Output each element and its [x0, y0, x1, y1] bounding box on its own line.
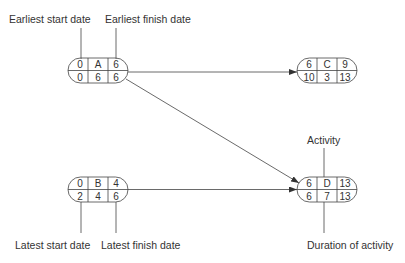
node-c-name: C	[317, 58, 337, 71]
node-c-earliest-start: 6	[299, 58, 319, 71]
node-a-name: A	[88, 58, 108, 71]
node-c-latest-finish: 13	[335, 71, 355, 84]
node-d-duration: 7	[317, 190, 337, 203]
label-activity: Activity	[307, 134, 340, 146]
node-c: 6 C 9 10 3 13	[297, 58, 357, 83]
node-d-earliest-finish: 13	[335, 177, 355, 190]
label-latest-finish: Latest finish date	[101, 239, 180, 251]
node-a-latest-finish: 6	[106, 71, 126, 84]
label-latest-start: Latest start date	[15, 239, 90, 251]
node-d-earliest-start: 6	[299, 177, 319, 190]
node-b: 0 B 4 2 4 6	[68, 177, 128, 202]
node-d: 6 D 13 6 7 13	[297, 177, 357, 202]
node-a-earliest-finish: 6	[106, 58, 126, 71]
node-d-latest-finish: 13	[335, 190, 355, 203]
edge-a-d	[126, 79, 299, 183]
node-d-name: D	[317, 177, 337, 190]
node-a-latest-start: 0	[70, 71, 90, 84]
node-b-earliest-finish: 4	[106, 177, 126, 190]
label-earliest-start: Earliest start date	[9, 13, 91, 25]
label-earliest-finish: Earliest finish date	[105, 13, 191, 25]
node-d-latest-start: 6	[299, 190, 319, 203]
node-b-latest-start: 2	[70, 190, 90, 203]
node-b-name: B	[88, 177, 108, 190]
node-c-duration: 3	[317, 71, 337, 84]
node-b-latest-finish: 6	[106, 190, 126, 203]
node-b-earliest-start: 0	[70, 177, 90, 190]
node-b-duration: 4	[88, 190, 108, 203]
node-c-latest-start: 10	[299, 71, 319, 84]
network-diagram	[0, 0, 405, 263]
node-a-duration: 6	[88, 71, 108, 84]
node-a: 0 A 6 0 6 6	[68, 58, 128, 83]
node-c-earliest-finish: 9	[335, 58, 355, 71]
node-a-earliest-start: 0	[70, 58, 90, 71]
label-duration: Duration of activity	[307, 239, 393, 251]
